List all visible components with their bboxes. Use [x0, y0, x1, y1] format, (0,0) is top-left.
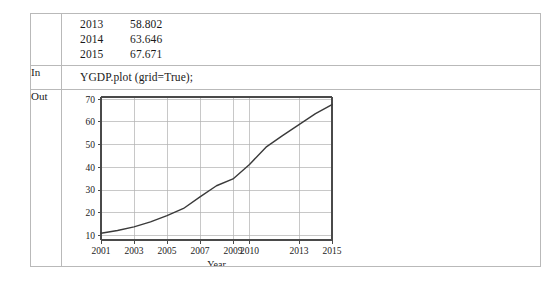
list-item: 201463.646 — [80, 32, 540, 47]
y-tick-label: 20 — [86, 208, 96, 218]
list-item: 201358.802 — [80, 17, 540, 32]
x-tick-label: 2007 — [191, 246, 210, 256]
table-row-input: In YGDP.plot (grid=True); — [31, 66, 541, 90]
series-line-ygdp — [101, 105, 332, 234]
table-row-data-listing: 201358.802 201463.646 201567.671 — [31, 14, 541, 66]
x-tick-label: 2003 — [125, 246, 144, 256]
chart-tick-labels: 1020304050607020012003200520072009201020… — [86, 95, 342, 256]
input-code-cell[interactable]: YGDP.plot (grid=True); — [62, 66, 541, 90]
line-chart: 1020304050607020012003200520072009201020… — [62, 90, 540, 266]
data-listing: 201358.802 201463.646 201567.671 — [62, 14, 540, 65]
data-year: 2014 — [80, 32, 130, 47]
row-label-in: In — [31, 66, 62, 90]
row-label-out: Out — [31, 90, 62, 267]
data-year: 2013 — [80, 17, 130, 32]
data-year: 2015 — [80, 47, 130, 62]
code-text: YGDP.plot (grid=True); — [62, 66, 540, 89]
y-tick-label: 70 — [86, 95, 96, 105]
table-row-output: Out 102030405060702001200320052007200920… — [31, 90, 541, 267]
screenshot-root: { "notebook": { "rows": [ { "label": "",… — [0, 0, 549, 287]
x-tick-label: 2015 — [323, 246, 342, 256]
chart-ticks — [98, 99, 333, 243]
row-label-blank — [31, 14, 62, 66]
chart-series-line — [101, 105, 332, 234]
list-item: 201567.671 — [80, 47, 540, 62]
y-tick-label: 30 — [86, 185, 96, 195]
x-tick-label: 2001 — [92, 246, 111, 256]
y-tick-label: 10 — [86, 231, 96, 241]
data-value: 67.671 — [130, 47, 162, 62]
chart-axes — [101, 97, 332, 240]
chart-gridlines — [101, 97, 332, 240]
data-listing-cell: 201358.802 201463.646 201567.671 — [62, 14, 541, 66]
y-tick-label: 60 — [86, 117, 96, 127]
notebook-table: 201358.802 201463.646 201567.671 In YGDP… — [30, 13, 541, 267]
data-value: 58.802 — [130, 17, 162, 32]
chart-svg: 1020304050607020012003200520072009201020… — [62, 90, 540, 266]
x-tick-label: 2005 — [158, 246, 177, 256]
x-axis-title: Year — [207, 259, 226, 266]
x-tick-label: 2013 — [290, 246, 309, 256]
y-tick-label: 50 — [86, 140, 96, 150]
data-value: 63.646 — [130, 32, 162, 47]
y-tick-label: 40 — [86, 163, 96, 173]
x-tick-label: 2010 — [240, 246, 259, 256]
output-figure-cell: 1020304050607020012003200520072009201020… — [62, 90, 541, 267]
